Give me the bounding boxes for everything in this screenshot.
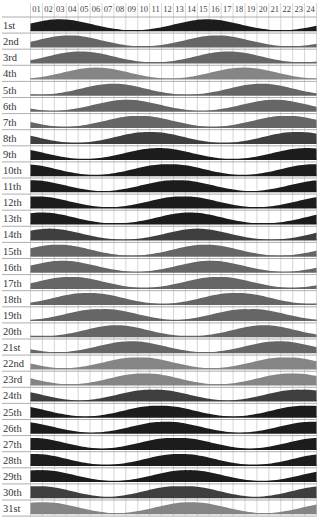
tide-chart: 0102030405060708091011121314151617181920… bbox=[0, 0, 323, 522]
day-label: 6th bbox=[3, 101, 17, 112]
day-row: 6th bbox=[2, 98, 317, 112]
hour-label: 15 bbox=[199, 4, 208, 14]
day-row: 5th bbox=[2, 81, 317, 95]
day-label: 8th bbox=[3, 133, 17, 144]
day-label: 1st bbox=[3, 20, 15, 31]
day-label: 23rd bbox=[3, 374, 23, 385]
tide-area bbox=[31, 148, 317, 159]
day-row: 10th bbox=[2, 162, 317, 176]
day-label: 21st bbox=[3, 342, 21, 353]
tide-area bbox=[31, 486, 317, 497]
hour-label: 17 bbox=[223, 4, 232, 14]
hour-label: 24 bbox=[306, 4, 315, 14]
day-label: 19th bbox=[3, 310, 22, 321]
hour-label: 19 bbox=[247, 4, 256, 14]
hour-label: 07 bbox=[104, 4, 113, 14]
tide-area bbox=[31, 502, 317, 513]
hour-label: 09 bbox=[128, 4, 137, 14]
day-label: 2nd bbox=[3, 36, 20, 47]
tide-area bbox=[31, 196, 317, 207]
day-label: 15th bbox=[3, 246, 22, 257]
hour-label: 01 bbox=[32, 4, 41, 14]
day-label: 27th bbox=[3, 439, 22, 450]
day-row: 17th bbox=[2, 275, 317, 289]
hour-label: 02 bbox=[44, 4, 53, 14]
day-row: 14th bbox=[2, 226, 317, 240]
day-row: 4th bbox=[2, 65, 317, 79]
hour-label: 06 bbox=[92, 4, 101, 14]
hour-label: 14 bbox=[187, 4, 196, 14]
day-row: 1st bbox=[2, 17, 317, 31]
day-row: 13th bbox=[2, 210, 317, 224]
day-label: 22nd bbox=[3, 358, 25, 369]
tide-area bbox=[31, 438, 317, 449]
day-label: 25th bbox=[3, 407, 22, 418]
tide-area bbox=[31, 470, 317, 481]
day-row: 8th bbox=[2, 130, 317, 144]
day-label: 12th bbox=[3, 197, 22, 208]
day-label: 31st bbox=[3, 503, 21, 514]
day-label: 5th bbox=[3, 85, 17, 96]
tide-area bbox=[31, 454, 317, 465]
day-row: 18th bbox=[2, 291, 317, 305]
day-label: 14th bbox=[3, 229, 22, 240]
day-label: 3rd bbox=[3, 52, 18, 63]
hour-label: 12 bbox=[163, 4, 172, 14]
day-row: 16th bbox=[2, 259, 317, 273]
hour-label: 04 bbox=[68, 4, 77, 14]
day-label: 30th bbox=[3, 487, 22, 498]
tide-area bbox=[31, 422, 317, 433]
hour-label: 18 bbox=[235, 4, 244, 14]
day-row: 24th bbox=[2, 387, 317, 401]
tide-area bbox=[31, 164, 317, 175]
day-label: 29th bbox=[3, 471, 22, 482]
day-label: 11th bbox=[3, 181, 22, 192]
day-rows: 1st2nd3rd4th5th6th7th8th9th10th11th12th1… bbox=[2, 17, 317, 516]
hour-label: 05 bbox=[80, 4, 89, 14]
hour-label: 11 bbox=[152, 4, 160, 14]
tide-area bbox=[31, 180, 317, 191]
tide-area bbox=[31, 213, 317, 224]
day-label: 10th bbox=[3, 165, 22, 176]
day-label: 16th bbox=[3, 262, 22, 273]
day-row: 3rd bbox=[2, 49, 317, 63]
day-label: 7th bbox=[3, 117, 17, 128]
day-row: 25th bbox=[2, 403, 317, 417]
day-row: 26th bbox=[2, 420, 317, 434]
day-row: 20th bbox=[2, 323, 317, 337]
day-row: 2nd bbox=[2, 33, 317, 47]
day-row: 30th bbox=[2, 484, 317, 498]
day-row: 27th bbox=[2, 436, 317, 450]
hour-label: 23 bbox=[294, 4, 303, 14]
day-row: 19th bbox=[2, 307, 317, 321]
hour-label: 03 bbox=[56, 4, 65, 14]
day-row: 31st bbox=[2, 500, 317, 514]
day-label: 9th bbox=[3, 149, 17, 160]
hour-label: 21 bbox=[271, 4, 280, 14]
day-label: 13th bbox=[3, 213, 22, 224]
hour-label: 20 bbox=[259, 4, 268, 14]
day-row: 28th bbox=[2, 452, 317, 466]
hour-label: 08 bbox=[116, 4, 125, 14]
hour-label: 22 bbox=[282, 4, 291, 14]
day-label: 26th bbox=[3, 423, 22, 434]
day-row: 22nd bbox=[2, 355, 317, 369]
hour-label: 10 bbox=[139, 4, 148, 14]
tide-area bbox=[31, 406, 317, 417]
day-label: 18th bbox=[3, 294, 22, 305]
day-row: 7th bbox=[2, 114, 317, 128]
day-label: 4th bbox=[3, 68, 17, 79]
day-row: 9th bbox=[2, 146, 317, 160]
day-row: 29th bbox=[2, 468, 317, 482]
day-row: 11th bbox=[2, 178, 317, 192]
tide-area bbox=[31, 390, 317, 401]
day-row: 23rd bbox=[2, 371, 317, 385]
day-row: 15th bbox=[2, 242, 317, 256]
day-row: 21st bbox=[2, 339, 317, 353]
day-row: 12th bbox=[2, 194, 317, 208]
hour-label: 16 bbox=[211, 4, 220, 14]
day-label: 24th bbox=[3, 390, 22, 401]
day-label: 17th bbox=[3, 278, 22, 289]
day-label: 28th bbox=[3, 455, 22, 466]
hour-label: 13 bbox=[175, 4, 184, 14]
